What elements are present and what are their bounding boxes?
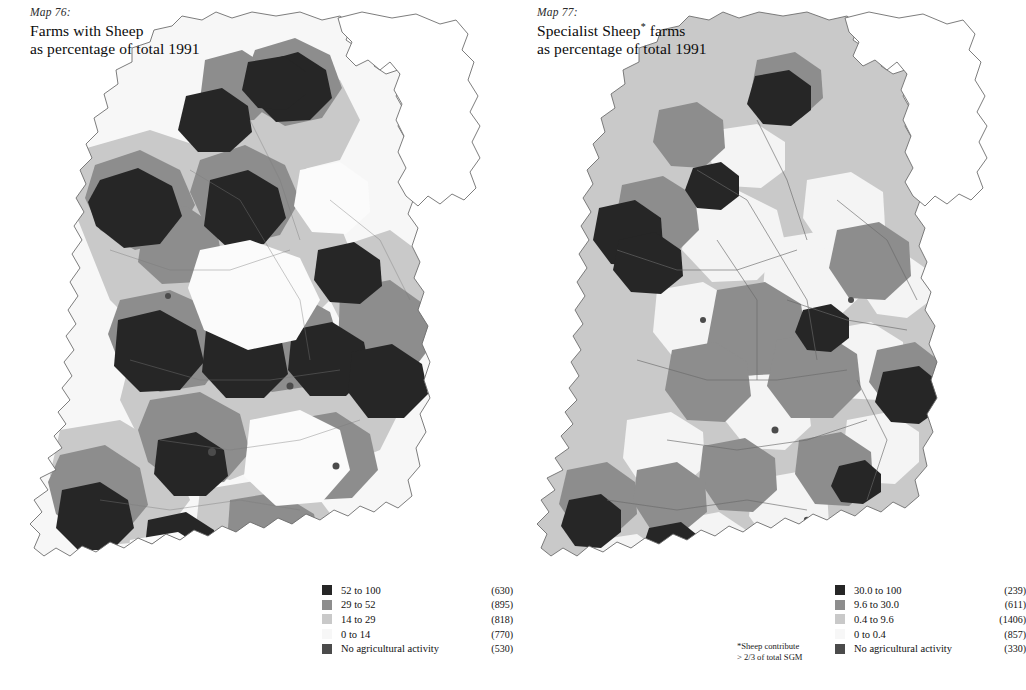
legend-swatch-class-1 xyxy=(322,585,332,595)
legend-count: (530) xyxy=(469,643,513,654)
legend-swatch-class-2 xyxy=(322,600,332,610)
map-76-title-block: Map 76: Farms with Sheep as percentage o… xyxy=(30,6,200,58)
map-77-footnote: *Sheep contribute > 2/3 of total SGM xyxy=(737,641,802,663)
map-76-number: Map 76: xyxy=(30,6,200,20)
legend-count: (239) xyxy=(982,585,1026,596)
legend-label: 30.0 to 100 xyxy=(854,585,982,596)
legend-count: (857) xyxy=(982,629,1026,640)
map-76-title-line-1: Farms with Sheep xyxy=(30,22,200,40)
legend-row: 9.6 to 30.0 (611) xyxy=(835,598,1026,613)
legend-swatch-class-1 xyxy=(835,585,845,595)
legend-label: No agricultural activity xyxy=(341,643,469,654)
legend-count: (1406) xyxy=(982,614,1026,625)
legend-row: No agricultural activity (330) xyxy=(835,641,1026,656)
legend-count: (611) xyxy=(982,599,1026,610)
legend-label: 29 to 52 xyxy=(341,599,469,610)
legend-swatch-no-activity xyxy=(835,644,845,654)
legend-row: 52 to 100 (630) xyxy=(322,583,513,598)
map-77-legend: 30.0 to 100 (239) 9.6 to 30.0 (611) 0.4 … xyxy=(835,583,1026,656)
map-77-title-block: Map 77: Specialist Sheep* farms as perce… xyxy=(537,6,707,58)
map-77-title-line-1: Specialist Sheep* farms xyxy=(537,22,707,40)
legend-count: (630) xyxy=(469,585,513,596)
legend-row: 14 to 29 (818) xyxy=(322,612,513,627)
legend-label: 0 to 0.4 xyxy=(854,629,982,640)
map-panel-77: Map 77: Specialist Sheep* farms as perce… xyxy=(507,0,1014,690)
legend-swatch-class-2 xyxy=(835,600,845,610)
legend-label: 9.6 to 30.0 xyxy=(854,599,982,610)
map-77-footnote-line-1: *Sheep contribute xyxy=(737,641,802,652)
map-77-number: Map 77: xyxy=(537,6,707,20)
legend-label: 14 to 29 xyxy=(341,614,469,625)
map-77-title-tail: farms xyxy=(646,22,686,39)
legend-row: No agricultural activity (530) xyxy=(322,641,513,656)
map-77-footnote-line-2: > 2/3 of total SGM xyxy=(737,652,802,663)
map-76-title-line-2: as percentage of total 1991 xyxy=(30,40,200,58)
legend-row: 29 to 52 (895) xyxy=(322,598,513,613)
legend-swatch-class-3 xyxy=(322,614,332,624)
legend-swatch-class-4 xyxy=(835,629,845,639)
legend-count: (895) xyxy=(469,599,513,610)
legend-row: 0 to 0.4 (857) xyxy=(835,627,1026,642)
map-76-legend: 52 to 100 (630) 29 to 52 (895) 14 to 29 … xyxy=(322,583,513,656)
legend-swatch-class-4 xyxy=(322,629,332,639)
legend-label: 0 to 14 xyxy=(341,629,469,640)
map-77-title-line-2: as percentage of total 1991 xyxy=(537,40,707,58)
legend-count: (818) xyxy=(469,614,513,625)
legend-row: 0 to 14 (770) xyxy=(322,627,513,642)
legend-label: No agricultural activity xyxy=(854,643,982,654)
map-77-title-main: Specialist Sheep xyxy=(537,22,641,39)
legend-swatch-class-3 xyxy=(835,614,845,624)
legend-label: 52 to 100 xyxy=(341,585,469,596)
map-panel-76: Map 76: Farms with Sheep as percentage o… xyxy=(0,0,507,690)
legend-count: (330) xyxy=(982,643,1026,654)
legend-count: (770) xyxy=(469,629,513,640)
legend-swatch-no-activity xyxy=(322,644,332,654)
legend-row: 0.4 to 9.6 (1406) xyxy=(835,612,1026,627)
legend-row: 30.0 to 100 (239) xyxy=(835,583,1026,598)
legend-label: 0.4 to 9.6 xyxy=(854,614,982,625)
